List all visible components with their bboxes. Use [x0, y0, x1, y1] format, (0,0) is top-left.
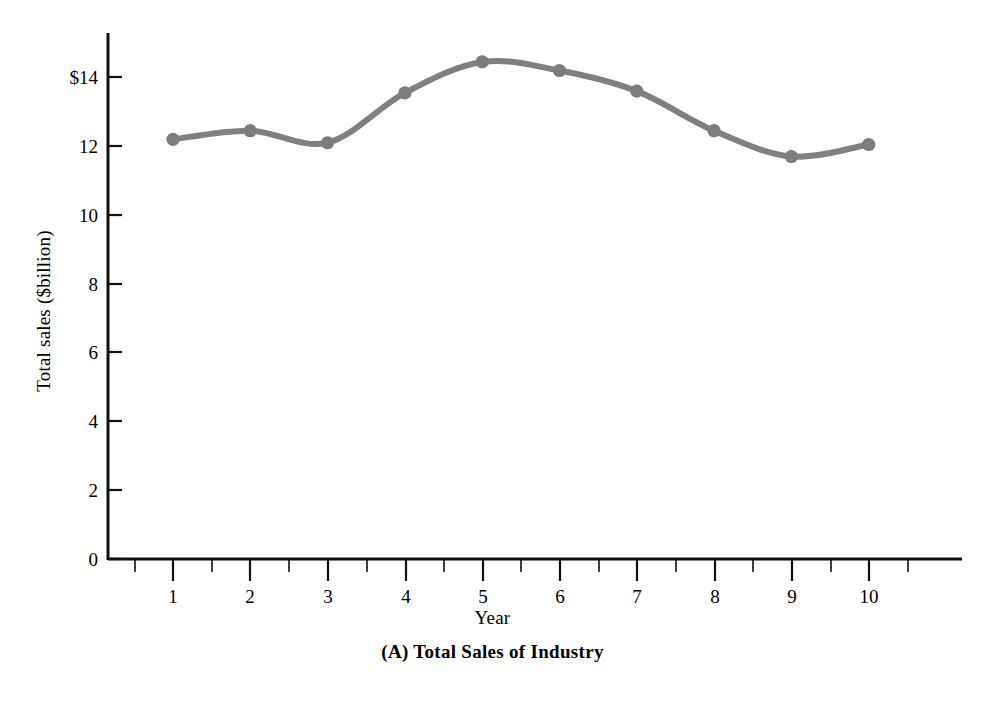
data-point-marker — [476, 55, 489, 68]
x-tick-label: 8 — [710, 586, 720, 607]
data-series-line — [173, 61, 869, 157]
data-point-marker — [244, 124, 257, 137]
data-point-marker — [708, 124, 721, 137]
x-axis-title: Year — [0, 607, 985, 629]
x-tick-label: 5 — [478, 586, 488, 607]
y-tick-label: 0 — [89, 549, 99, 570]
y-tick-label: 2 — [89, 480, 99, 501]
x-tick-label: 2 — [245, 586, 255, 607]
data-point-markers — [166, 55, 875, 163]
data-point-marker — [862, 138, 875, 151]
line-chart-plot: 0 2 4 6 8 10 12 $14 — [0, 0, 985, 707]
x-tick-label: 3 — [323, 586, 333, 607]
data-point-marker — [785, 150, 798, 163]
data-point-marker — [166, 133, 179, 146]
data-point-marker — [398, 86, 411, 99]
data-point-marker — [321, 136, 334, 149]
y-axis-title: Total sales ($billion) — [33, 171, 55, 451]
figure-container: 0 2 4 6 8 10 12 $14 — [0, 0, 985, 707]
x-axis-tick-labels: 1 2 3 4 5 6 7 8 9 10 — [168, 586, 878, 607]
x-tick-label: 10 — [860, 586, 879, 607]
y-axis-ticks — [108, 77, 122, 559]
x-tick-label: 6 — [555, 586, 565, 607]
x-tick-label: 9 — [787, 586, 797, 607]
y-tick-label: 6 — [89, 342, 99, 363]
figure-caption: (A) Total Sales of Industry — [0, 641, 985, 663]
data-point-marker — [630, 85, 643, 98]
x-tick-label: 7 — [632, 586, 642, 607]
axes-group — [108, 33, 962, 560]
y-axis-tick-labels: 0 2 4 6 8 10 12 $14 — [70, 67, 99, 570]
y-tick-label: 4 — [89, 411, 99, 432]
y-tick-label: $14 — [70, 67, 99, 88]
y-tick-label: 10 — [79, 205, 98, 226]
data-point-marker — [553, 64, 566, 77]
x-tick-label: 1 — [168, 586, 178, 607]
x-tick-label: 4 — [401, 586, 411, 607]
y-tick-label: 8 — [89, 274, 99, 295]
y-tick-label: 12 — [79, 136, 98, 157]
